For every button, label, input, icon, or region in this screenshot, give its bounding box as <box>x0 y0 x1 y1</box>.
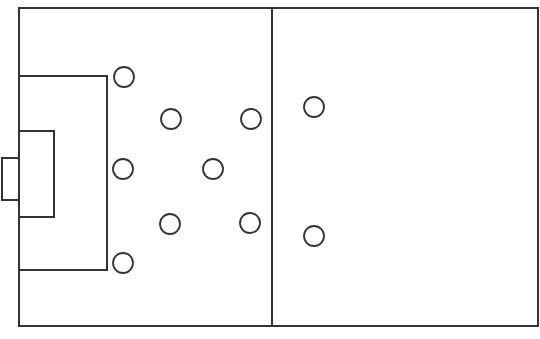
soccer-field-diagram <box>0 0 540 339</box>
player-markers <box>113 67 324 273</box>
player-marker-p4 <box>304 97 324 117</box>
goal-area <box>19 131 54 217</box>
player-marker-p8 <box>240 213 260 233</box>
player-marker-p10 <box>113 253 133 273</box>
penalty-area <box>19 76 107 270</box>
player-marker-p9 <box>304 226 324 246</box>
player-marker-p6 <box>203 159 223 179</box>
field-boundary <box>19 8 538 326</box>
player-marker-p5 <box>113 159 133 179</box>
player-marker-p3 <box>241 109 261 129</box>
player-marker-p1 <box>114 67 134 87</box>
goal <box>2 158 19 200</box>
player-marker-p2 <box>161 109 181 129</box>
player-marker-p7 <box>160 214 180 234</box>
